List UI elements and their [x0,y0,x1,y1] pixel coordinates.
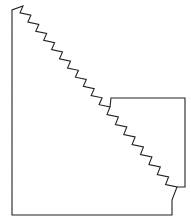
diagram-svg [0,0,191,217]
outer-outline [12,6,177,215]
diagram-canvas [0,0,191,217]
inset-square [110,98,185,187]
